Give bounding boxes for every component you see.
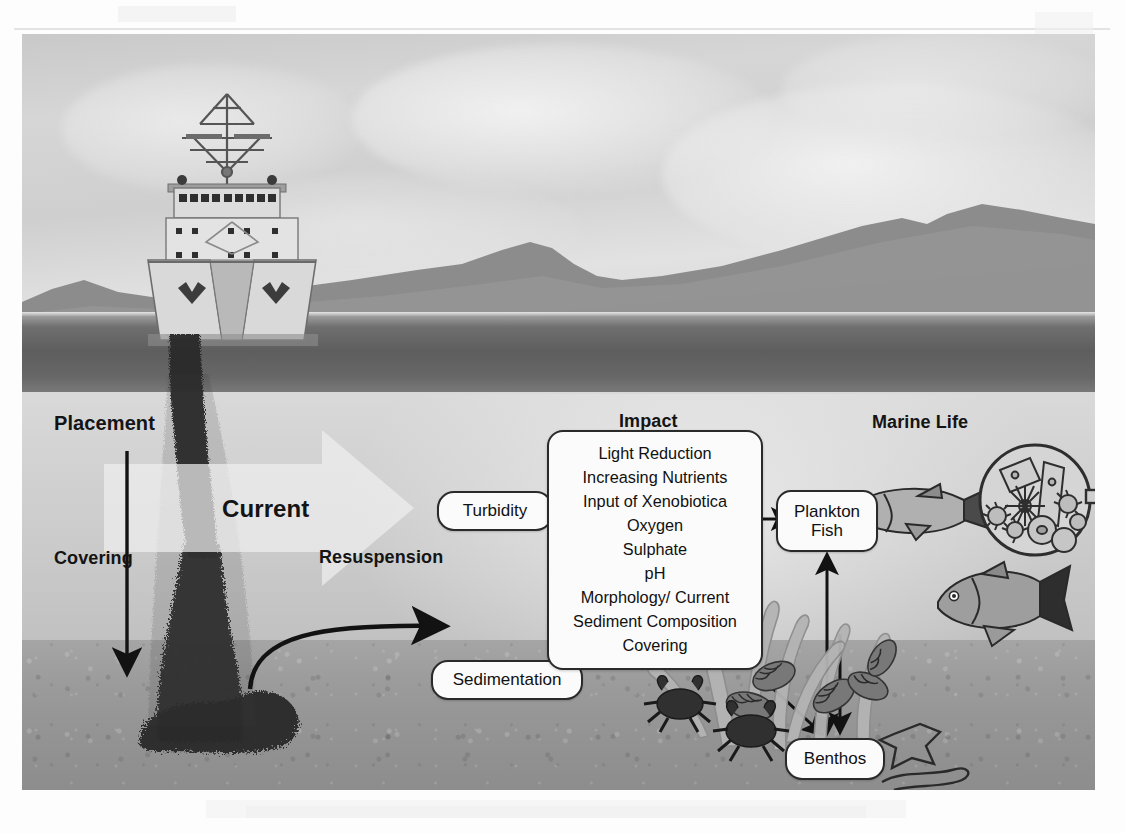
figure-panel: Placement Covering Current Resuspension …	[22, 34, 1095, 790]
impact-item: pH	[573, 562, 737, 586]
page-artifact-caption-bleed-2	[246, 806, 866, 818]
label-current: Current	[222, 495, 309, 523]
node-benthos-label: Benthos	[804, 749, 866, 768]
impact-item-list: Light ReductionIncreasing NutrientsInput…	[573, 442, 737, 658]
label-placement: Placement	[54, 412, 155, 435]
worm	[882, 769, 968, 790]
node-benthos[interactable]: Benthos	[785, 738, 885, 780]
fish-lower	[938, 562, 1072, 646]
impact-item: Covering	[573, 634, 737, 658]
crab-left	[644, 676, 716, 732]
impact-box[interactable]: Light ReductionIncreasing NutrientsInput…	[547, 430, 763, 670]
label-impact: Impact	[619, 411, 678, 432]
node-sedimentation-label: Sedimentation	[453, 670, 562, 689]
impact-item: Morphology/ Current	[573, 586, 737, 610]
starfish	[880, 724, 940, 768]
label-resuspension: Resuspension	[319, 547, 443, 568]
node-plankton-label-line2: Fish	[811, 521, 843, 540]
label-covering: Covering	[54, 548, 133, 569]
page-artifact-top-right	[1035, 12, 1093, 34]
node-turbidity-label: Turbidity	[463, 501, 528, 520]
node-plankton-label-line1: Plankton	[794, 502, 860, 521]
plankton-microscope-view	[980, 445, 1095, 555]
impact-item: Oxygen	[573, 514, 737, 538]
impact-item: Sediment Composition	[573, 610, 737, 634]
impact-item: Light Reduction	[573, 442, 737, 466]
page-rule-top	[14, 28, 1110, 30]
impact-item: Input of Xenobiotica	[573, 490, 737, 514]
resuspension-curve-arrow	[250, 626, 442, 689]
impact-item: Increasing Nutrients	[573, 466, 737, 490]
page-artifact-top-left	[118, 6, 236, 22]
label-marine-life: Marine Life	[872, 412, 968, 433]
node-turbidity[interactable]: Turbidity	[437, 491, 553, 531]
impact-item: Sulphate	[573, 538, 737, 562]
node-plankton-fish[interactable]: Plankton Fish	[776, 490, 878, 552]
